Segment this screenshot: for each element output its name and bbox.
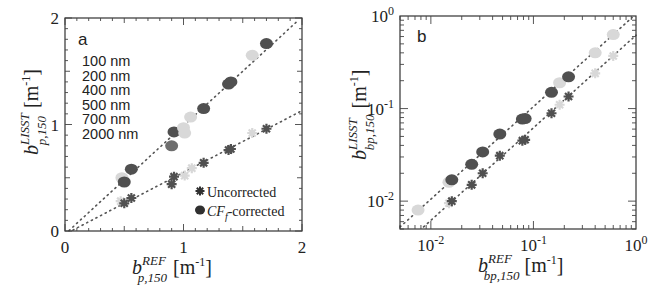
corrected-point <box>476 146 489 157</box>
uncorrected-point <box>247 128 257 138</box>
x-tick-label: 0 <box>61 238 70 257</box>
corrected-point <box>246 50 259 61</box>
corrected-point <box>589 47 602 58</box>
size-legend: 100 nm200 nm400 nm500 nm700 nm2000 nm <box>82 53 138 142</box>
x-tick-label: 2 <box>298 238 307 257</box>
uncorrected-point <box>590 68 600 78</box>
y-tick-label: 2 <box>51 9 60 28</box>
legend-label-corrected: CFf-corrected <box>207 204 284 222</box>
uncorrected-point <box>520 135 530 145</box>
x-tick-label: 100 <box>625 233 648 255</box>
uncorrected-point <box>261 124 271 134</box>
legend-item-uncorrected: Uncorrected <box>196 185 277 200</box>
corrected-point <box>125 164 138 175</box>
legend-item-corrected: CFf-corrected <box>195 204 284 222</box>
size-legend-item: 700 nm <box>82 111 130 127</box>
uncorrected-point <box>169 172 179 182</box>
corrected-point <box>545 87 558 98</box>
y-tick-label: 1 <box>51 116 60 135</box>
uncorrected-point <box>226 144 236 154</box>
y-axis-title-a: bLISSTp,150[m-1] <box>17 69 49 155</box>
uncorrected-point <box>180 171 190 181</box>
panel-label-b: b <box>417 27 426 46</box>
uncorrected-point <box>187 163 197 173</box>
corrected-point <box>445 174 458 185</box>
size-legend-item: 2000 nm <box>82 126 138 142</box>
corrected-point <box>184 112 197 123</box>
y-tick-label: 0 <box>51 222 60 241</box>
corrected-point <box>260 38 273 49</box>
uncorrected-point <box>478 168 488 178</box>
uncorrected-point <box>447 196 457 206</box>
panel-a: 012012 a 100 nm200 nm400 nm500 nm700 nm2… <box>17 9 306 285</box>
uncorrected-point <box>555 100 565 110</box>
x-axis-title-a: bREFp,150[m-1] <box>132 253 212 285</box>
uncorrected-point <box>467 180 477 190</box>
figure: 012012 a 100 nm200 nm400 nm500 nm700 nm2… <box>0 0 662 305</box>
corrected-point <box>412 205 425 216</box>
x-tick-label: 10-1 <box>520 233 547 255</box>
uncorrected-point <box>167 179 177 189</box>
data-points <box>115 38 273 208</box>
marker-legend: Uncorrected CFf-corrected <box>195 185 284 222</box>
circle-marker-icon <box>195 206 205 215</box>
corrected-point <box>197 103 210 114</box>
y-axis-title-b: bLISSTbp,150[m-1] <box>345 70 377 160</box>
uncorrected-point <box>495 151 505 161</box>
x-tick-label: 10-2 <box>417 233 444 255</box>
corrected-point <box>465 159 478 170</box>
corrected-point <box>607 29 620 40</box>
corrected-point <box>178 128 191 139</box>
uncorrected-point <box>546 108 556 118</box>
corrected-point <box>519 113 532 124</box>
star-marker-icon <box>196 187 205 196</box>
corrected-point <box>562 71 575 82</box>
uncorrected-point <box>199 158 209 168</box>
x-axis-title-b: bREFbp,150[m-1] <box>478 251 563 283</box>
uncorrected-point <box>119 198 129 208</box>
x-tick-label: 1 <box>179 238 188 257</box>
uncorrected-point <box>608 51 618 61</box>
corrected-point <box>224 76 237 87</box>
y-tick-label: 10-2 <box>367 189 394 211</box>
uncorrected-point <box>564 92 574 102</box>
corrected-point <box>165 140 178 151</box>
corrected-point <box>118 177 131 188</box>
legend-label-uncorrected: Uncorrected <box>207 185 276 200</box>
size-legend-item: 500 nm <box>82 97 130 113</box>
panel-b: 10-210-110010-210-1100 b bREFbp,150[m-1]… <box>345 4 648 283</box>
size-legend-item: 400 nm <box>82 82 130 98</box>
y-tick-label: 100 <box>371 4 394 26</box>
panel-label-a: a <box>78 30 88 49</box>
size-legend-item: 100 nm <box>82 53 130 69</box>
corrected-point <box>493 129 506 140</box>
size-legend-item: 200 nm <box>82 68 130 84</box>
uncorrected-point <box>126 193 136 203</box>
